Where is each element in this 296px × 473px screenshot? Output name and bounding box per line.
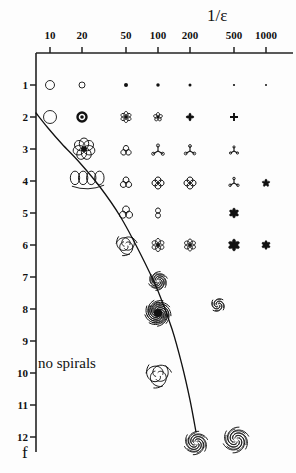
data-point-symbol [212, 299, 224, 311]
data-point-symbol [233, 84, 235, 86]
data-point-symbol [79, 82, 85, 88]
data-point-symbol [46, 81, 55, 90]
data-point-symbol [184, 145, 195, 155]
axes-lines [36, 53, 293, 452]
data-point-symbol [73, 138, 95, 159]
data-point-symbol [119, 206, 132, 218]
data-point-symbol [152, 239, 164, 252]
data-point-symbol [230, 113, 238, 121]
data-point-symbol [265, 84, 267, 86]
data-point-symbol [121, 146, 131, 156]
data-point-symbol [152, 177, 164, 189]
plot-canvas [0, 0, 296, 473]
data-point-symbol [185, 239, 196, 251]
data-point-symbol [154, 113, 163, 121]
data-point-symbol [145, 300, 171, 326]
data-point-symbol [121, 112, 131, 123]
data-point-symbol [152, 144, 165, 155]
data-point-symbol [229, 239, 240, 251]
y-axis-title: f [22, 443, 28, 463]
data-point-symbol [230, 208, 239, 218]
data-point-symbol [189, 84, 192, 87]
data-point-symbol [116, 237, 137, 256]
data-point-symbol [223, 427, 248, 453]
data-point-symbol [120, 177, 131, 187]
data-point-symbol [229, 146, 238, 154]
data-point-symbol [156, 208, 161, 218]
data-point-symbol [78, 113, 87, 122]
data-point-symbol [146, 365, 171, 388]
data-point-symbol [156, 83, 160, 87]
data-point-symbol [185, 431, 208, 454]
data-symbols-layer [44, 81, 271, 455]
data-point-symbol [186, 113, 194, 121]
data-point-symbol [184, 177, 196, 189]
data-point-symbol [149, 272, 167, 291]
no-spirals-boundary-curve [36, 113, 196, 432]
no-spirals-label: no spirals [38, 355, 96, 372]
data-point-symbol [124, 83, 128, 87]
data-point-symbol [262, 179, 270, 186]
data-point-symbol [229, 177, 239, 186]
spiral-phase-diagram-figure: 1/ε 1020501002005001000 123456789101112 … [0, 0, 296, 473]
data-point-symbol [44, 111, 57, 124]
data-point-symbol [262, 241, 270, 250]
